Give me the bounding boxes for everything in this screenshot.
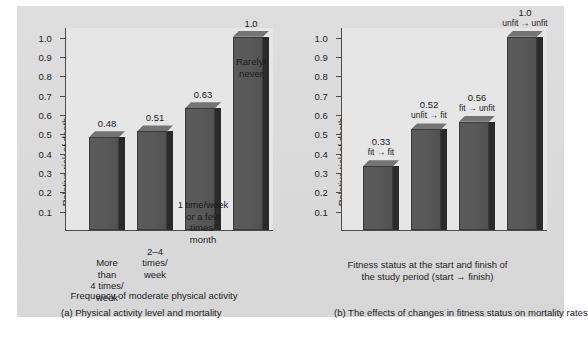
bar-face (137, 131, 167, 230)
y-tick-label: 0.5 (314, 129, 328, 140)
bar-top-face (89, 131, 125, 137)
y-tick-label: 0.7 (38, 90, 52, 101)
x-axis-label-b: Fitness status at the start and finish o… (291, 259, 564, 283)
bar-value-label: 0.52unfit → fit (411, 99, 447, 121)
y-tick: 1.0 (336, 38, 341, 39)
y-tick-label: 0.2 (314, 187, 328, 198)
bar-value-number: 0.56 (468, 92, 487, 103)
bar-value-label: 1.0unfit → unfit (502, 7, 547, 29)
y-tick-label: 1.0 (314, 32, 328, 43)
bar-face (459, 122, 489, 230)
y-axis-line-b (341, 28, 342, 231)
y-tick: 0.5 (60, 134, 65, 135)
y-tick: 0.9 (60, 57, 65, 58)
y-axis-line-a (65, 28, 66, 231)
bar: 1.0unfit → unfit (507, 37, 537, 230)
bar-transition-label: unfit → fit (411, 110, 447, 121)
y-tick: 0.1 (60, 212, 65, 213)
bar-value-number: 0.33 (372, 136, 391, 147)
x-axis-line-a (65, 230, 273, 231)
bar-side-face (119, 137, 125, 230)
bar-top-face (363, 160, 399, 166)
bar-value-number: 1.0 (244, 18, 257, 29)
chart-panel-b: Relative risk of death 0.10.20.30.40.50.… (291, 6, 564, 317)
y-tick: 0.4 (60, 154, 65, 155)
bar: 1.0Rarely/ never (233, 37, 263, 230)
y-tick: 0.9 (336, 57, 341, 58)
bar-top-face (137, 125, 173, 131)
y-tick-label: 0.8 (38, 71, 52, 82)
plot-area-a: 0.10.20.30.40.50.60.70.80.91.0 0.48More … (65, 28, 273, 231)
y-tick: 0.2 (336, 192, 341, 193)
y-tick: 0.2 (60, 192, 65, 193)
bar-face (363, 166, 393, 230)
y-tick: 0.7 (336, 96, 341, 97)
bar-value-number: 0.63 (194, 89, 213, 100)
bar-transition-label: fit → fit (368, 147, 394, 158)
y-tick: 0.1 (336, 212, 341, 213)
bar-transition-label: fit → unfit (459, 103, 495, 114)
y-tick: 0.6 (60, 115, 65, 116)
plot-area-b: 0.10.20.30.40.50.60.70.80.91.0 0.33fit →… (341, 28, 547, 231)
y-tick-label: 0.8 (314, 71, 328, 82)
bar-value-label: 1.0 (244, 18, 257, 29)
caption-b: (b) The effects of changes in fitness st… (334, 307, 588, 318)
bar-face (411, 129, 441, 230)
bar-value-label: 0.33fit → fit (368, 136, 394, 158)
y-tick-label: 0.4 (314, 148, 328, 159)
x-category-label: Rarely/ never (220, 56, 282, 79)
bar-value-label: 0.51 (146, 112, 165, 123)
y-tick-label: 0.6 (314, 110, 328, 121)
y-tick-label: 0.3 (314, 168, 328, 179)
bar: 0.48More than 4 times/ week (89, 137, 119, 230)
bar-value-number: 0.48 (98, 118, 117, 129)
figure-container: Relative risk of death 0.10.20.30.40.50.… (17, 6, 564, 317)
chart-panel-a: Relative risk of death 0.10.20.30.40.50.… (17, 6, 291, 317)
bar-top-face (233, 31, 269, 37)
y-tick-label: 0.9 (314, 52, 328, 63)
bar: 0.52unfit → fit (411, 129, 441, 230)
x-category-label: 2–4 times/ week (124, 246, 186, 281)
y-tick: 0.3 (60, 173, 65, 174)
y-tick: 0.8 (60, 76, 65, 77)
bar-top-face (411, 123, 447, 129)
y-tick-label: 0.1 (314, 206, 328, 217)
bar: 0.631 time/week or a few times/ month (185, 108, 215, 230)
bar-value-label: 0.56fit → unfit (459, 92, 495, 114)
y-tick: 0.6 (336, 115, 341, 116)
y-tick: 0.5 (336, 134, 341, 135)
bar-top-face (507, 31, 543, 37)
caption-a: (a) Physical activity level and mortalit… (61, 307, 222, 318)
y-tick-label: 0.2 (38, 187, 52, 198)
bar-value-number: 1.0 (518, 7, 531, 18)
bar: 0.512–4 times/ week (137, 131, 167, 230)
bar-value-number: 0.52 (420, 99, 439, 110)
y-tick-label: 0.9 (38, 52, 52, 63)
bar: 0.56fit → unfit (459, 122, 489, 230)
y-tick-label: 0.3 (38, 168, 52, 179)
y-tick: 0.7 (60, 96, 65, 97)
y-tick-label: 0.7 (314, 90, 328, 101)
x-axis-line-b (341, 230, 547, 231)
bar-face (507, 37, 537, 230)
x-axis-label-a: Frequency of moderate physical activity (17, 290, 291, 302)
y-tick: 0.3 (336, 173, 341, 174)
bar-value-label: 0.63 (194, 89, 213, 100)
y-tick: 1.0 (60, 38, 65, 39)
bar-side-face (393, 166, 399, 230)
x-category-label: 1 time/week or a few times/ month (172, 199, 234, 245)
bar-top-face (459, 116, 495, 122)
bar-value-label: 0.48 (98, 118, 117, 129)
y-tick-label: 0.5 (38, 129, 52, 140)
bar-side-face (441, 129, 447, 230)
bar-value-number: 0.51 (146, 112, 165, 123)
y-tick: 0.4 (336, 154, 341, 155)
y-tick: 0.8 (336, 76, 341, 77)
bar: 0.33fit → fit (363, 166, 393, 230)
bar-transition-label: unfit → unfit (502, 18, 547, 29)
y-tick-label: 0.4 (38, 148, 52, 159)
y-tick-label: 0.6 (38, 110, 52, 121)
bar-side-face (489, 122, 495, 230)
bar-top-face (185, 102, 221, 108)
y-tick-label: 0.1 (38, 206, 52, 217)
